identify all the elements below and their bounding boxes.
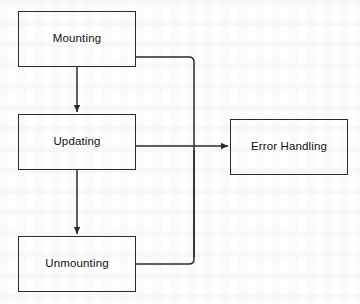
node-error-handling-label: Error Handling (251, 141, 327, 153)
node-error-handling[interactable]: Error Handling (230, 119, 348, 175)
node-mounting-label: Mounting (53, 33, 102, 45)
node-updating[interactable]: Updating (18, 114, 136, 170)
node-unmounting[interactable]: Unmounting (18, 236, 136, 292)
edge-unmounting-to-error-bus (136, 150, 194, 264)
edge-mounting-to-error-bus (136, 57, 194, 257)
diagram-canvas: Mounting Updating Unmounting Error Handl… (0, 0, 360, 304)
node-unmounting-label: Unmounting (45, 258, 109, 270)
node-mounting[interactable]: Mounting (18, 11, 136, 67)
node-updating-label: Updating (53, 136, 100, 148)
